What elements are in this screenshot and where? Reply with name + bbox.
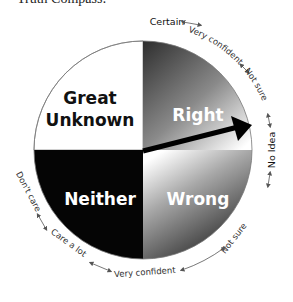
label-right: Right <box>172 105 223 125</box>
label-great: Great <box>63 88 116 108</box>
label-neither: Neither <box>64 189 136 209</box>
label-unknown: Unknown <box>46 110 135 130</box>
ring-label-not-sure-top: Not sure <box>243 66 270 102</box>
ring-arrow <box>268 173 270 186</box>
ring-arrow <box>38 215 46 229</box>
ring-label-no-idea: No Idea <box>266 132 277 168</box>
ring-label-not-sure-bottom: Not sure <box>219 221 249 255</box>
label-wrong: Wrong <box>167 189 230 209</box>
truth-compass-diagram: Great Unknown Right Neither Wrong Certai… <box>0 0 293 302</box>
ring-label-certain: Certain <box>150 16 185 27</box>
ring-arrow <box>91 263 110 271</box>
ring-arrow <box>182 248 224 270</box>
ring-arrow <box>268 115 270 126</box>
ring-label-very-confident-bottom: Very confident <box>114 265 177 279</box>
